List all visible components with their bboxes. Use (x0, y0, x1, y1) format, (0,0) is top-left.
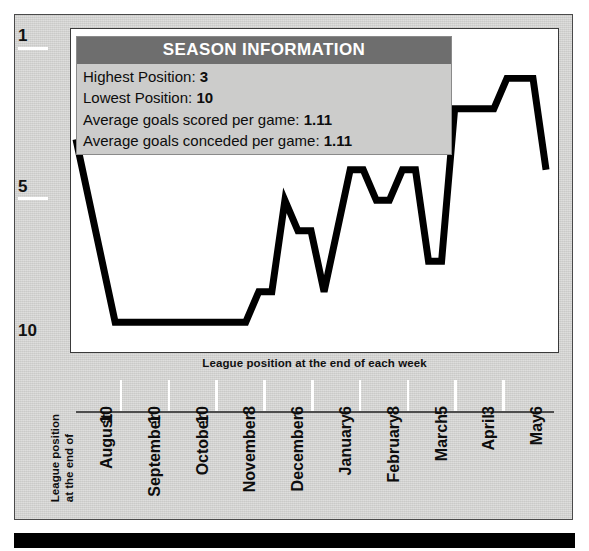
info-row-value: 1.11 (324, 132, 352, 149)
y-axis-label-10: 10 (18, 322, 37, 339)
info-row-highest-position: Highest Position: 3 (83, 66, 451, 87)
info-row-label: Lowest Position: (83, 89, 192, 106)
x-axis-month-label: February (385, 414, 403, 482)
x-axis-day-label: 8 (385, 406, 403, 415)
x-axis-month-label: December (289, 414, 307, 491)
info-row-avg-goals-conceded: Average goals conceded per game: 1.11 (83, 130, 451, 151)
info-row-label: Average goals scored per game: (83, 111, 300, 128)
bottom-black-bar (14, 533, 575, 548)
info-row-lowest-position: Lowest Position: 10 (83, 87, 451, 108)
x-axis-tick (263, 380, 266, 411)
x-axis-day-label: 6 (289, 406, 307, 415)
y-axis-title-line-2: at the end of (62, 414, 76, 502)
x-axis-tick (407, 380, 410, 411)
y-axis-tick-5 (18, 197, 48, 200)
season-information-box: SEASON INFORMATION Highest Position: 3 L… (76, 36, 452, 155)
y-axis-tick-1 (18, 47, 48, 50)
x-axis-month-label: May (528, 414, 546, 445)
info-row-avg-goals-scored: Average goals scored per game: 1.11 (83, 109, 451, 130)
season-information-title: SEASON INFORMATION (77, 37, 451, 64)
x-axis-tick (359, 380, 362, 411)
info-row-label: Average goals conceded per game: (83, 132, 320, 149)
x-axis-month-label: March (433, 414, 451, 461)
x-axis-tick (215, 380, 218, 411)
x-axis-tick (502, 380, 505, 411)
x-axis-month-label: April (480, 414, 498, 450)
x-axis-tick (311, 380, 314, 411)
info-row-label: Highest Position: (83, 68, 196, 85)
x-axis-day-label: 3 (480, 406, 498, 415)
x-axis-day-label: 10 (194, 406, 212, 424)
x-axis-month-label: November (241, 414, 259, 492)
info-row-value: 10 (196, 89, 213, 106)
x-axis-tick (120, 380, 123, 411)
y-axis-title: League position at the end of (48, 414, 77, 502)
x-axis-tick (454, 380, 457, 411)
season-information-body: Highest Position: 3 Lowest Position: 10 … (77, 64, 451, 154)
info-row-value: 1.11 (304, 111, 332, 128)
y-axis-title-line-1: League position (48, 414, 62, 502)
x-axis-day-label: 5 (433, 406, 451, 415)
screenshot-root: 1 5 10 League position at the end of eac… (0, 0, 589, 551)
plot-caption: League position at the end of each week (70, 357, 559, 369)
x-axis-month-label: September (146, 414, 164, 497)
y-axis-label-5: 5 (18, 178, 27, 195)
x-axis-month-label: January (337, 414, 355, 475)
x-axis-day-label: 6 (337, 406, 355, 415)
x-axis-tick (168, 380, 171, 411)
x-axis-day-label: 6 (528, 406, 546, 415)
y-axis-label-1: 1 (18, 27, 27, 44)
x-axis-day-label: 10 (98, 406, 116, 424)
x-axis-zone: League position at the end of August10Se… (14, 378, 573, 520)
x-axis-day-label: 8 (241, 406, 259, 415)
x-axis-day-label: 10 (146, 406, 164, 424)
info-row-value: 3 (200, 68, 208, 85)
